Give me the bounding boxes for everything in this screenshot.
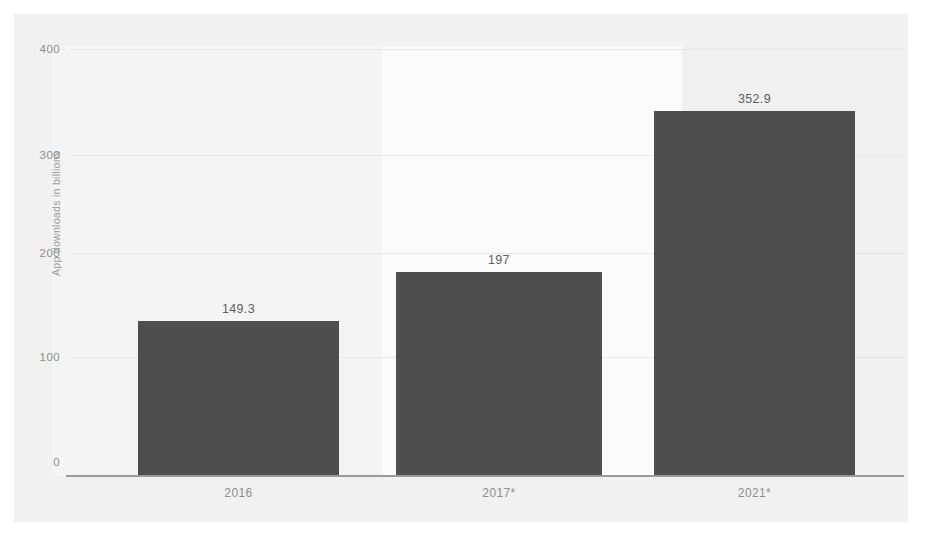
y-tick-label-0: 0 bbox=[14, 456, 60, 468]
bar-value-2021: 352.9 bbox=[654, 92, 855, 106]
chart-panel: 400 300 200 100 0 App downloads in billi… bbox=[14, 14, 908, 522]
bar-value-2016: 149.3 bbox=[138, 302, 339, 316]
bar-2016[interactable] bbox=[138, 321, 339, 475]
y-tick-label-100: 100 bbox=[14, 351, 60, 363]
bar-chart: 400 300 200 100 0 App downloads in billi… bbox=[0, 0, 945, 550]
x-tick-label-2016: 2016 bbox=[138, 486, 339, 500]
bar-2021[interactable] bbox=[654, 111, 855, 475]
gridline-400 bbox=[70, 49, 904, 50]
x-axis-line bbox=[66, 475, 904, 477]
x-tick-label-2021: 2021* bbox=[654, 486, 855, 500]
y-tick-label-400: 400 bbox=[14, 43, 60, 55]
bar-value-2017: 197 bbox=[396, 253, 602, 267]
x-tick-label-2017: 2017* bbox=[396, 486, 602, 500]
bar-2017[interactable] bbox=[396, 272, 602, 475]
y-axis-title: App downloads in billions bbox=[50, 151, 62, 276]
